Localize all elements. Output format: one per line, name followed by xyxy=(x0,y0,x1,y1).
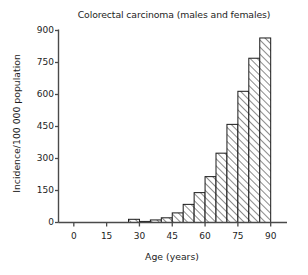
y-tick-label: 300 xyxy=(20,154,54,163)
x-tick-label: 15 xyxy=(93,232,121,241)
x-tick-label: 30 xyxy=(125,232,153,241)
x-tick-label: 90 xyxy=(257,232,285,241)
bar xyxy=(227,124,238,222)
y-tick-label: 900 xyxy=(20,26,54,35)
bar xyxy=(249,58,260,222)
bar xyxy=(216,153,227,222)
x-tick-label: 45 xyxy=(158,232,186,241)
bar xyxy=(194,193,205,223)
bar xyxy=(205,177,216,223)
bar-series xyxy=(129,38,271,223)
bar xyxy=(238,91,249,222)
x-tick-label: 75 xyxy=(224,232,252,241)
bar xyxy=(260,38,271,223)
y-tick-label: 450 xyxy=(20,122,54,131)
y-tick-label: 150 xyxy=(20,186,54,195)
bar xyxy=(183,204,194,222)
bar xyxy=(172,213,183,223)
y-tick-label: 600 xyxy=(20,90,54,99)
y-tick-label: 750 xyxy=(20,58,54,67)
bar xyxy=(161,218,172,223)
x-tick-label: 60 xyxy=(191,232,219,241)
y-tick-label: 0 xyxy=(20,218,54,227)
chart-figure: Colorectal carcinoma (males and females)… xyxy=(0,0,308,275)
x-tick-label: 0 xyxy=(60,232,88,241)
